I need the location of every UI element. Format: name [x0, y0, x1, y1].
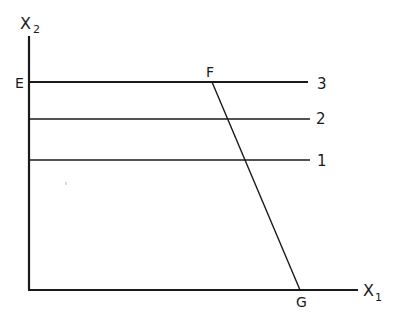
line-1-label: 1 [317, 152, 327, 170]
line-2-label: 2 [316, 110, 326, 128]
y-axis-label: X [20, 14, 31, 33]
segment-fg [212, 82, 300, 290]
point-f-label: F [206, 64, 214, 80]
point-e-label: E [15, 75, 24, 91]
y-axis-subscript: 2 [33, 23, 40, 36]
x-axis-subscript: 1 [375, 291, 382, 304]
line-3-label: 3 [317, 75, 327, 93]
diagram-canvas: X 2 E F G 3 2 1 X 1 [0, 0, 393, 317]
point-g-label: G [296, 294, 307, 310]
x-axis-label: X [363, 281, 374, 300]
